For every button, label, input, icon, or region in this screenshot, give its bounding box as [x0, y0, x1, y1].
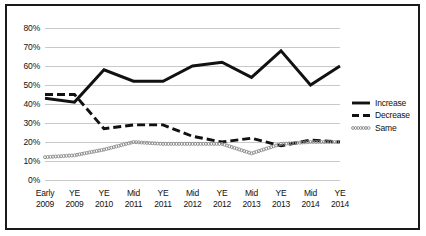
chart-container: 80%70%60%50%40%30%20%10%0% Early2009YE20…: [0, 0, 426, 236]
x-axis-tick-year: 2011: [148, 199, 178, 210]
x-axis-tick-label: YE2012: [207, 188, 237, 209]
x-axis-tick-period: Early: [30, 188, 60, 199]
legend-label-decrease: Decrease: [375, 110, 410, 120]
series-line-increase: [45, 51, 340, 102]
legend-swatch-same: [367, 127, 370, 130]
x-axis-tick-year: 2013: [266, 199, 296, 210]
x-axis-tick-period: YE: [148, 188, 178, 199]
y-axis-tick-label: 10%: [14, 156, 40, 166]
x-axis-tick-year: 2014: [325, 199, 355, 210]
legend-label-same: Same: [375, 123, 396, 133]
x-axis-tick-year: 2012: [178, 199, 208, 210]
x-axis-tick-label: Mid2011: [119, 188, 149, 209]
y-axis-tick-label: 0%: [14, 175, 40, 185]
y-axis-tick-label: 20%: [14, 137, 40, 147]
y-axis-tick-label: 40%: [14, 99, 40, 109]
x-axis-tick-period: Mid: [119, 188, 149, 199]
x-axis-tick-period: YE: [325, 188, 355, 199]
y-axis-tick-label: 50%: [14, 80, 40, 90]
x-axis-tick-period: Mid: [178, 188, 208, 199]
x-axis-tick-year: 2013: [237, 199, 267, 210]
x-axis-tick-period: Mid: [237, 188, 267, 199]
x-axis-tick-year: 2014: [296, 199, 326, 210]
x-axis-tick-period: YE: [266, 188, 296, 199]
x-axis-tick-label: YE2009: [60, 188, 90, 209]
x-axis-tick-label: YE2011: [148, 188, 178, 209]
x-axis-tick-period: YE: [60, 188, 90, 199]
x-axis-tick-year: 2011: [119, 199, 149, 210]
x-axis-tick-period: Mid: [296, 188, 326, 199]
x-axis-tick-label: Mid2014: [296, 188, 326, 209]
x-axis-tick-year: 2009: [60, 199, 90, 210]
x-axis-tick-label: Early2009: [30, 188, 60, 209]
x-axis-tick-label: YE2010: [89, 188, 119, 209]
series-line-decrease: [45, 95, 340, 146]
x-axis-tick-period: YE: [89, 188, 119, 199]
x-axis-tick-year: 2012: [207, 199, 237, 210]
x-axis-tick-period: YE: [207, 188, 237, 199]
x-axis-tick-year: 2009: [30, 199, 60, 210]
y-axis-tick-label: 60%: [14, 61, 40, 71]
y-axis-tick-label: 70%: [14, 42, 40, 52]
gridlines: [45, 28, 340, 180]
x-axis-tick-label: Mid2013: [237, 188, 267, 209]
legend-label-increase: Increase: [375, 98, 406, 108]
x-axis-tick-label: Mid2012: [178, 188, 208, 209]
legend-swatches: [352, 103, 370, 129]
x-axis-tick-label: YE2014: [325, 188, 355, 209]
y-axis-tick-label: 30%: [14, 118, 40, 128]
x-axis-tick-label: YE2013: [266, 188, 296, 209]
y-axis-tick-label: 80%: [14, 23, 40, 33]
x-axis-tick-year: 2010: [89, 199, 119, 210]
data-series-group: [44, 51, 341, 159]
